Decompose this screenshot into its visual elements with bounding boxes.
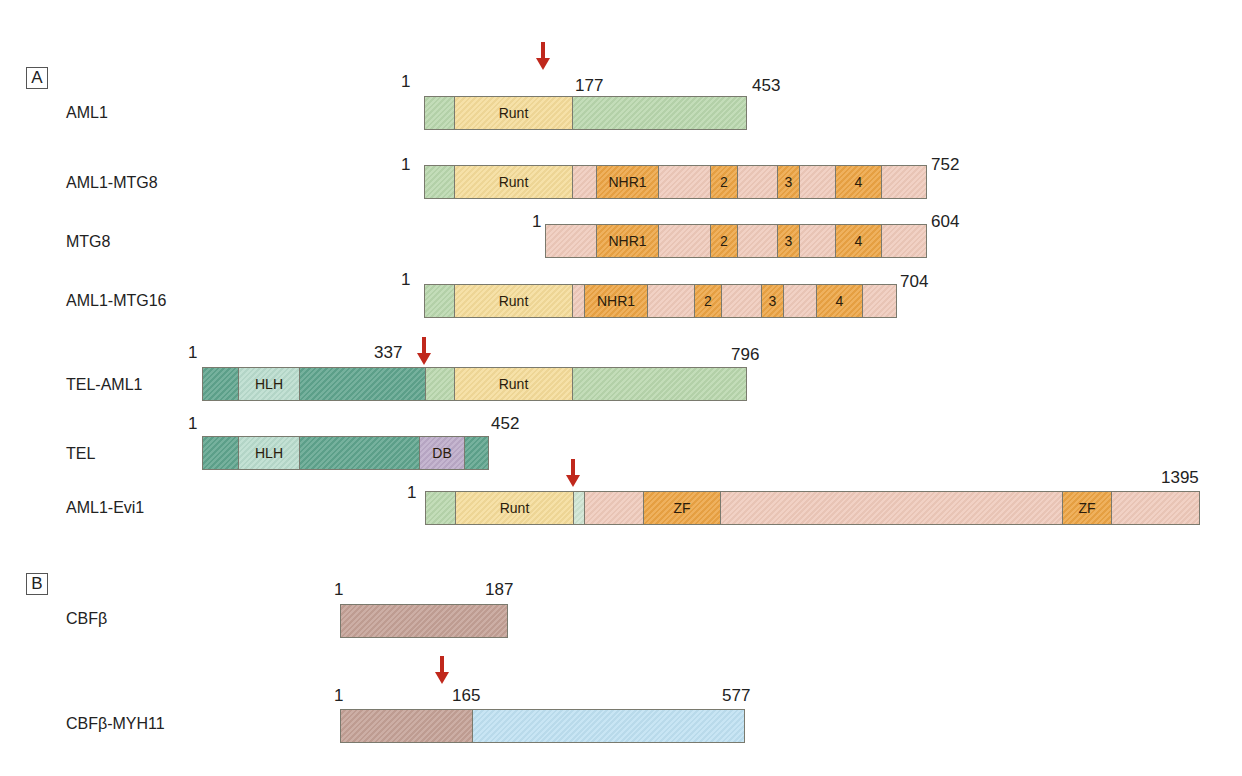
aml1-mtg16-start: 1	[401, 270, 410, 290]
nhr4-domain: 4	[835, 224, 881, 258]
mtg16-linker	[721, 284, 761, 318]
mtg8-linker	[658, 224, 710, 258]
aml1-start: 1	[401, 72, 410, 92]
runt-domain: Runt	[454, 96, 572, 130]
nhr1-domain: NHR1	[596, 165, 658, 199]
breakpoint-arrow-icon	[568, 459, 578, 489]
aml1-n-term	[424, 284, 454, 318]
mtg8-linker	[658, 165, 710, 199]
nhr3-domain: 3	[761, 284, 783, 318]
tel-middle	[299, 436, 419, 470]
runt-domain: Runt	[455, 491, 573, 525]
nhr3-domain: 3	[777, 224, 799, 258]
nhr1-domain: NHR1	[596, 224, 658, 258]
row-label-mtg8: MTG8	[66, 233, 110, 251]
hlh-domain: HLH	[238, 436, 299, 470]
aml1-n-term	[424, 96, 454, 130]
mtg8-n-term	[545, 224, 596, 258]
aml1-c-term	[572, 96, 747, 130]
aml1-n-term	[425, 491, 455, 525]
row-label-tel: TEL	[66, 445, 95, 463]
row-label-aml1-mtg16: AML1-MTG16	[66, 292, 166, 310]
cbfb-myh11-breakpoint: 165	[452, 686, 480, 706]
nhr1-domain: NHR1	[584, 284, 647, 318]
panel-b-label: B	[26, 573, 48, 595]
evi1-region	[720, 491, 1062, 525]
myh11-part	[472, 709, 745, 743]
aml1-c-term	[572, 367, 747, 401]
cbfb-part	[340, 709, 472, 743]
tel-start: 1	[188, 414, 197, 434]
tel-n-term	[202, 367, 238, 401]
mtg8-linker	[799, 224, 835, 258]
mtg8-linker	[737, 224, 777, 258]
tel-n-term	[202, 436, 238, 470]
row-label-aml1-mtg8: AML1-MTG8	[66, 174, 158, 192]
aml1-n-term	[424, 165, 454, 199]
nhr2-domain: 2	[694, 284, 721, 318]
row-label-tel-aml1: TEL-AML1	[66, 376, 142, 394]
mtg8-end: 604	[931, 212, 959, 232]
aml1-n-term	[425, 367, 454, 401]
cbfb-myh11-end: 577	[722, 686, 750, 706]
mtg8-linker	[799, 165, 835, 199]
row-label-aml1-evi1: AML1-Evi1	[66, 499, 144, 517]
db-domain: DB	[419, 436, 464, 470]
evi1-region	[584, 491, 643, 525]
runt-domain: Runt	[454, 367, 572, 401]
row-label-aml1: AML1	[66, 104, 108, 122]
tel-end: 452	[491, 414, 519, 434]
tel-c-term	[464, 436, 489, 470]
cbfb-start: 1	[334, 580, 343, 600]
mtg8-c-term	[881, 165, 927, 199]
nhr2-domain: 2	[710, 165, 737, 199]
zf-domain: ZF	[643, 491, 720, 525]
aml1-evi1-end: 1395	[1161, 468, 1199, 488]
mtg16-linker	[783, 284, 816, 318]
aml1-mtg8-start: 1	[401, 155, 410, 175]
breakpoint-arrow-icon	[419, 337, 429, 367]
nhr4-domain: 4	[816, 284, 862, 318]
cbfb-end: 187	[485, 580, 513, 600]
aml1-breakpoint: 177	[575, 76, 603, 96]
aml1-mtg8-end: 752	[931, 155, 959, 175]
tel-aml1-end: 796	[731, 345, 759, 365]
runt-domain: Runt	[454, 284, 572, 318]
row-label-cbfb-myh11: CBFβ-MYH11	[66, 715, 165, 733]
aml1-evi1-start: 1	[407, 483, 416, 503]
tel-middle	[299, 367, 425, 401]
tel-aml1-breakpoint: 337	[374, 343, 402, 363]
mtg8-c-term	[881, 224, 927, 258]
aml1-junction	[573, 491, 584, 525]
mtg16-linker	[572, 284, 584, 318]
mtg8-start: 1	[532, 212, 541, 232]
mtg16-linker	[647, 284, 694, 318]
tel-aml1-start: 1	[188, 343, 197, 363]
mtg8-linker	[572, 165, 596, 199]
nhr4-domain: 4	[835, 165, 881, 199]
row-label-cbfb: CBFβ	[66, 610, 107, 628]
runt-domain: Runt	[454, 165, 572, 199]
nhr2-domain: 2	[710, 224, 737, 258]
hlh-domain: HLH	[238, 367, 299, 401]
nhr3-domain: 3	[777, 165, 799, 199]
zf-domain: ZF	[1062, 491, 1111, 525]
cbfb-protein	[340, 604, 508, 638]
mtg8-linker	[737, 165, 777, 199]
breakpoint-arrow-icon	[437, 656, 447, 686]
mtg16-c-term	[862, 284, 897, 318]
panel-a-label: A	[26, 67, 48, 89]
evi1-c-term	[1111, 491, 1200, 525]
breakpoint-arrow-icon	[538, 42, 548, 72]
aml1-end: 453	[752, 76, 780, 96]
aml1-mtg16-end: 704	[900, 272, 928, 292]
cbfb-myh11-start: 1	[334, 686, 343, 706]
